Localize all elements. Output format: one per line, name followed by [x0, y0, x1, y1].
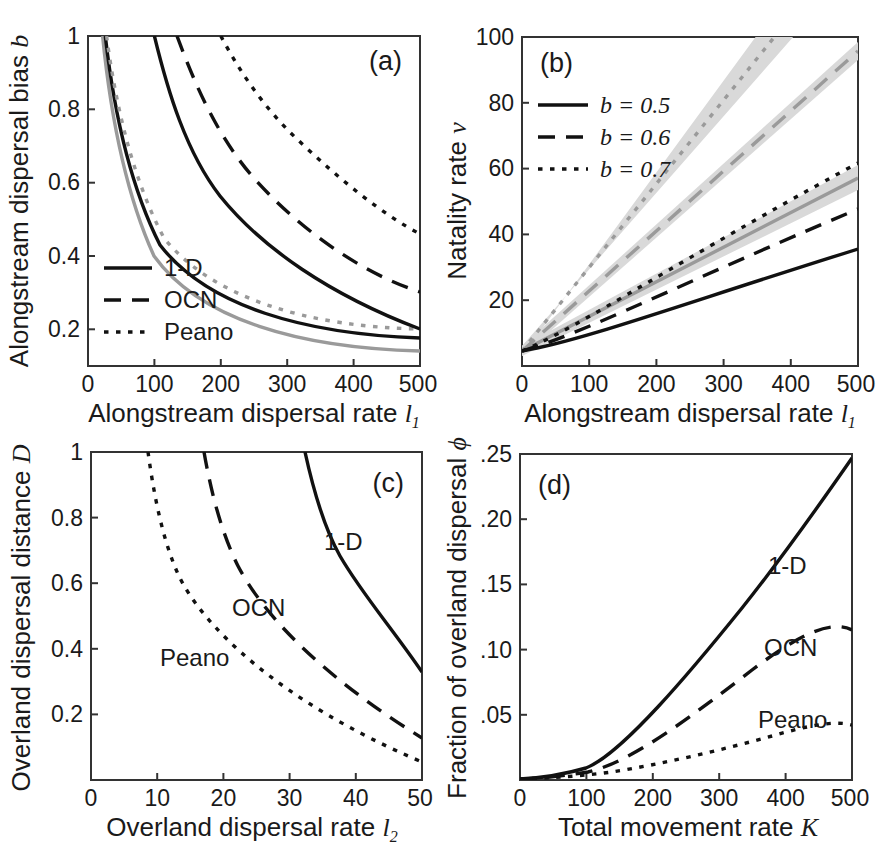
annotation-c-1d: 1-D — [324, 528, 363, 555]
yaxis-title-b: Natality rate ν — [442, 122, 472, 280]
xaxis-title-d-text: Total movement rate — [558, 812, 794, 842]
panel-b-xtick-labels: 0 100 200 300 400 500 — [516, 371, 876, 397]
xtick-d-0: 0 — [514, 785, 527, 811]
legend-a-label-peano: Peano — [164, 318, 233, 345]
panel-b: 0 100 200 300 400 500 20 40 60 80 100 (b… — [442, 0, 884, 432]
xaxis-title-c-sym: l — [382, 813, 389, 842]
ytick-b-2: 60 — [488, 155, 514, 181]
panel-d-annotations: 1-D OCN Peano — [758, 552, 827, 733]
legend-a-label-ocn: OCN — [164, 286, 217, 313]
ytick-b-1: 40 — [488, 221, 514, 247]
xaxis-title-c: Overland dispersal rate l2 — [106, 812, 397, 845]
xtick-c-1: 10 — [144, 785, 170, 811]
xaxis-title-b-text: Alongstream dispersal rate — [524, 398, 833, 428]
xaxis-title-b: Alongstream dispersal rate l1 — [524, 398, 856, 431]
xtick-d-4: 400 — [766, 785, 804, 811]
ytick-a-3: 0.8 — [48, 96, 80, 122]
ytick-a-2: 0.6 — [48, 169, 80, 195]
panel-c-annotations: 1-D OCN Peano — [160, 528, 363, 671]
yaxis-title-d-sym: ϕ — [443, 437, 472, 450]
ytick-b-3: 80 — [488, 90, 514, 116]
ytick-d-4: .25 — [480, 441, 512, 467]
xtick-a-1: 100 — [135, 371, 173, 397]
yaxis-title-c-sym: D — [7, 444, 36, 464]
ytick-a-0: 0.2 — [48, 316, 80, 342]
yaxis-title-a-sym: b — [5, 35, 34, 48]
panel-d-xtick-labels: 0 100 200 300 400 500 — [514, 785, 870, 811]
annotation-d-ocn: OCN — [764, 634, 817, 661]
legend-b-label-06: b = 0.6 — [600, 124, 670, 150]
panel-tag-d: (d) — [538, 470, 571, 500]
panel-d-ytick-labels: .05 .10 .15 .20 .25 — [480, 441, 512, 728]
ytick-c-0: 0.2 — [51, 701, 83, 727]
yaxis-title-a: Alongstream dispersal bias b — [4, 35, 34, 367]
xtick-b-0: 0 — [516, 371, 529, 397]
xtick-c-4: 40 — [343, 785, 369, 811]
xtick-b-2: 200 — [637, 371, 675, 397]
xtick-a-3: 300 — [268, 371, 306, 397]
xtick-a-4: 400 — [334, 371, 372, 397]
xtick-c-5: 50 — [407, 785, 433, 811]
annotation-d-1d: 1-D — [768, 552, 807, 579]
ytick-a-4: 1 — [67, 23, 80, 49]
ytick-d-1: .10 — [480, 637, 512, 663]
xaxis-title-a-text: Alongstream dispersal rate — [88, 398, 397, 428]
annotation-d-peano: Peano — [758, 706, 827, 733]
curve-a-peano-gray — [107, 36, 420, 329]
panel-b-ytick-labels: 20 40 60 80 100 — [476, 24, 514, 313]
xtick-b-3: 300 — [704, 371, 742, 397]
xtick-b-4: 400 — [772, 371, 810, 397]
panel-c-ytick-labels: 0.2 0.4 0.6 0.8 1 — [51, 439, 83, 727]
ytick-c-3: 0.8 — [51, 505, 83, 531]
band-b-05 — [522, 165, 858, 356]
yaxis-title-c: Overland dispersal distance D — [6, 444, 36, 791]
yaxis-title-d: Fraction of overland dispersal ϕ — [442, 437, 472, 799]
xtick-b-5: 500 — [837, 371, 875, 397]
xtick-a-0: 0 — [82, 371, 95, 397]
xtick-c-2: 20 — [211, 785, 237, 811]
ytick-a-1: 0.4 — [48, 243, 80, 269]
xtick-d-2: 200 — [634, 785, 672, 811]
axis-ticks-a — [88, 36, 420, 366]
xaxis-title-d: Total movement rate K — [558, 812, 820, 842]
yaxis-title-b-sym: ν — [443, 122, 472, 134]
ytick-b-0: 20 — [488, 287, 514, 313]
xaxis-title-a-sub: 1 — [412, 414, 420, 431]
panel-b-legend: b = 0.5 b = 0.6 b = 0.7 — [538, 92, 671, 182]
ytick-c-1: 0.4 — [51, 636, 83, 662]
panel-c-xtick-labels: 0 10 20 30 40 50 — [85, 785, 433, 811]
curve-c-1d — [305, 452, 422, 672]
yaxis-title-a-text: Alongstream dispersal bias — [4, 55, 34, 367]
ytick-d-0: .05 — [480, 702, 512, 728]
ytick-d-2: .15 — [480, 571, 512, 597]
xaxis-title-d-sym: K — [800, 813, 820, 842]
annotation-c-peano: Peano — [160, 644, 229, 671]
annotation-c-ocn: OCN — [232, 594, 285, 621]
ytick-d-3: .20 — [480, 506, 512, 532]
xtick-a-2: 200 — [202, 371, 240, 397]
xaxis-title-c-sub: 2 — [390, 828, 398, 845]
xtick-a-5: 500 — [399, 371, 437, 397]
legend-b-label-05: b = 0.5 — [600, 92, 670, 118]
xtick-d-1: 100 — [567, 785, 605, 811]
axis-box-a — [88, 36, 420, 366]
panel-a-ytick-labels: 0.2 0.4 0.6 0.8 1 — [48, 23, 80, 342]
xtick-c-0: 0 — [85, 785, 98, 811]
ytick-b-4: 100 — [476, 24, 514, 50]
panel-c: 0 10 20 30 40 50 0.2 0.4 0.6 0.8 1 (c) 1… — [0, 432, 442, 864]
yaxis-title-d-text: Fraction of overland dispersal — [442, 458, 472, 799]
legend-b-label-07: b = 0.7 — [600, 156, 671, 182]
curve-a-1d-gray — [103, 36, 420, 351]
xaxis-title-c-text: Overland dispersal rate — [106, 812, 375, 842]
panel-tag-b: (b) — [540, 48, 573, 78]
panel-a: 0 100 200 300 400 500 0.2 0.4 0.6 0.8 1 … — [0, 0, 442, 432]
ytick-c-4: 1 — [70, 439, 83, 465]
xaxis-title-a-sym: l — [405, 399, 412, 428]
figure-canvas: 0 100 200 300 400 500 0.2 0.4 0.6 0.8 1 … — [0, 0, 884, 864]
yaxis-title-c-text: Overland dispersal distance — [6, 471, 36, 792]
xaxis-title-a: Alongstream dispersal rate l1 — [88, 398, 420, 431]
yaxis-title-b-text: Natality rate — [442, 141, 472, 280]
xtick-d-5: 500 — [831, 785, 869, 811]
legend-a-label-1d: 1-D — [164, 254, 203, 281]
panel-a-curves — [103, 36, 420, 351]
